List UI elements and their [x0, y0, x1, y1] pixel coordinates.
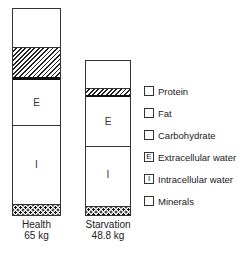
legend-item-protein: Protein	[144, 85, 188, 97]
bar-starvation: E I	[85, 60, 131, 216]
bar-label-health: Health 65 kg	[6, 219, 67, 241]
segment-intracellular-water: I	[13, 125, 60, 204]
legend-item-minerals: Minerals	[144, 195, 194, 207]
segment-protein	[86, 61, 130, 88]
bar-health: E I	[12, 8, 61, 216]
letter-e-box-icon: E	[144, 152, 154, 162]
i-mark: I	[13, 159, 60, 170]
segment-intracellular-water: I	[86, 146, 130, 206]
legend-item-intracellular-water: I Intracellular water	[144, 173, 233, 185]
e-mark: E	[86, 116, 130, 127]
i-mark: I	[86, 169, 130, 180]
segment-extracellular-water: E	[13, 80, 60, 125]
solid-black-box-icon	[144, 130, 154, 140]
legend-item-carbohydrate: Carbohydrate	[144, 129, 216, 141]
segment-minerals	[86, 206, 130, 215]
segment-minerals	[13, 204, 60, 215]
dotted-box-icon	[144, 196, 154, 206]
letter-i-box-icon: I	[144, 174, 154, 184]
blank-box-icon	[144, 86, 154, 96]
hatched-box-icon	[144, 108, 154, 118]
legend-item-fat: Fat	[144, 107, 172, 119]
segment-fat	[13, 47, 60, 77]
bar-label-starvation: Starvation 48.8 kg	[76, 219, 140, 241]
e-mark: E	[13, 97, 60, 108]
segment-extracellular-water: E	[86, 97, 130, 146]
segment-protein	[13, 9, 60, 47]
segment-fat	[86, 88, 130, 95]
legend-item-extracellular-water: E Extracellular water	[144, 151, 236, 163]
